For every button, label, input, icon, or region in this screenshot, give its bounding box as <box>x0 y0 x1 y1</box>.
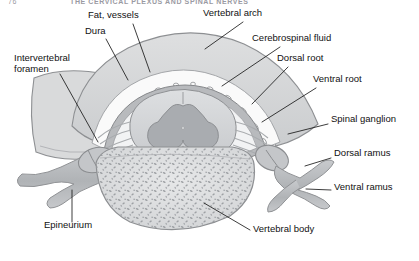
label-dorsal-root: Dorsal root <box>277 52 323 63</box>
right-spinal-nerve <box>252 141 334 212</box>
trabecular-bone-texture <box>96 147 258 242</box>
leader-ventral-ramus <box>306 189 331 190</box>
label-epineurium: Epineurium <box>44 219 92 230</box>
label-vertebral-body: Vertebral body <box>253 223 314 234</box>
label-cerebrospinal-fluid: Cerebrospinal fluid <box>252 32 331 43</box>
label-intervertebral-foramen: Intervertebral foramen <box>14 52 92 74</box>
label-spinal-ganglion: Spinal ganglion <box>331 113 396 124</box>
label-dura: Dura <box>85 25 106 36</box>
label-vertebral-arch: Vertebral arch <box>203 7 262 18</box>
label-dorsal-ramus: Dorsal ramus <box>334 147 391 158</box>
vertebral-body <box>96 147 258 242</box>
anatomical-figure: 76 THE CERVICAL PLEXUS AND SPINAL NERVES <box>0 0 419 261</box>
label-fat-vessels: Fat, vessels <box>88 9 139 20</box>
central-canal <box>182 127 185 130</box>
label-ventral-ramus: Ventral ramus <box>334 181 393 192</box>
label-ventral-root: Ventral root <box>313 73 362 84</box>
